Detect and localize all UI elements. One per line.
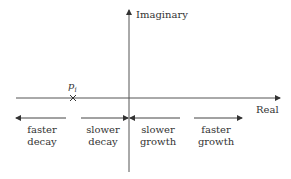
region-label-line1: faster (20, 124, 64, 136)
region-label-line2: decay (20, 136, 64, 148)
region-faster-growth: faster growth (192, 124, 240, 148)
region-label-line2: growth (192, 136, 240, 148)
region-label-line1: slower (134, 124, 182, 136)
imaginary-axis-label: Imaginary (136, 9, 188, 21)
region-label-line2: decay (81, 136, 125, 148)
region-label-line2: growth (134, 136, 182, 148)
region-slower-decay: slower decay (81, 124, 125, 148)
region-label-line1: faster (192, 124, 240, 136)
real-axis-label: Real (256, 104, 279, 116)
complex-plane-diagram (0, 0, 291, 179)
region-faster-decay: faster decay (20, 124, 64, 148)
pole-subscript: i (74, 86, 76, 94)
pole-label: pi (68, 80, 77, 94)
region-label-line1: slower (81, 124, 125, 136)
region-slower-growth: slower growth (134, 124, 182, 148)
